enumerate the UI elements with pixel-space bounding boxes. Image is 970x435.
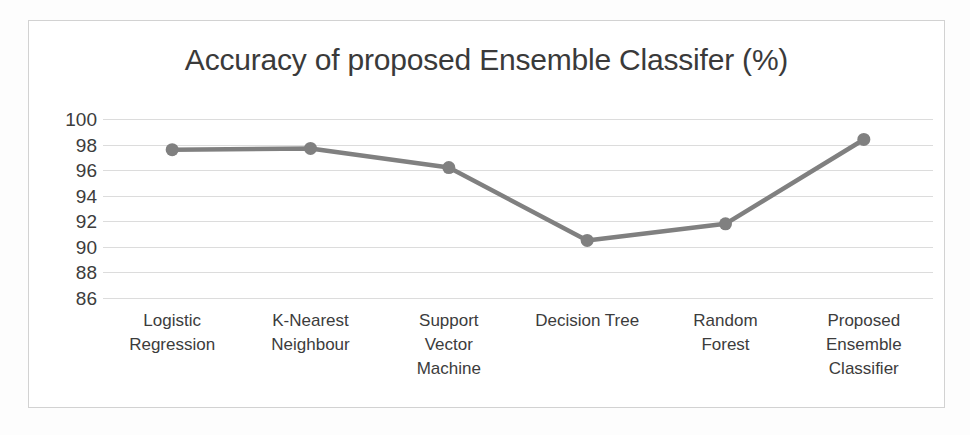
y-axis: 10098969492908886 [41,119,97,298]
x-axis-label-line: Random [658,309,792,333]
x-axis-category-label: Decision Tree [518,309,656,405]
x-axis-label-line: Proposed [797,309,931,333]
y-axis-tick-label: 96 [41,161,97,180]
data-point[interactable] [581,234,594,247]
data-point[interactable] [304,142,317,155]
x-axis-label-line: Regression [105,333,239,357]
x-axis-label-line: Forest [658,333,792,357]
y-axis-tick-label: 92 [41,212,97,231]
data-point[interactable] [719,217,732,230]
x-axis: LogisticRegressionK-NearestNeighbourSupp… [103,309,933,405]
x-axis-category-label: K-NearestNeighbour [241,309,379,405]
gridline [103,298,933,299]
y-axis-tick-label: 90 [41,237,97,256]
chart-container: Accuracy of proposed Ensemble Classifer … [28,20,945,408]
x-axis-label-line: Classifier [797,357,931,381]
y-axis-tick-label: 86 [41,289,97,308]
y-axis-tick-label: 94 [41,186,97,205]
series-polyline [172,139,864,240]
data-point[interactable] [857,133,870,146]
x-axis-category-label: LogisticRegression [103,309,241,405]
data-point[interactable] [442,161,455,174]
line-series [103,119,933,298]
y-axis-tick-label: 88 [41,263,97,282]
x-axis-label-line: Support [382,309,516,333]
x-axis-category-label: ProposedEnsembleClassifier [795,309,933,405]
y-axis-tick-label: 100 [41,110,97,129]
chart-title: Accuracy of proposed Ensemble Classifer … [29,43,944,77]
x-axis-category-label: RandomForest [656,309,794,405]
x-axis-category-label: SupportVectorMachine [380,309,518,405]
x-axis-label-line: Decision Tree [520,309,654,333]
x-axis-label-line: K-Nearest [243,309,377,333]
y-axis-tick-label: 98 [41,135,97,154]
x-axis-label-line: Logistic [105,309,239,333]
x-axis-label-line: Neighbour [243,333,377,357]
data-point[interactable] [166,143,179,156]
x-axis-label-line: Vector [382,333,516,357]
x-axis-label-line: Ensemble [797,333,931,357]
x-axis-label-line: Machine [382,357,516,381]
plot-area [103,119,933,298]
